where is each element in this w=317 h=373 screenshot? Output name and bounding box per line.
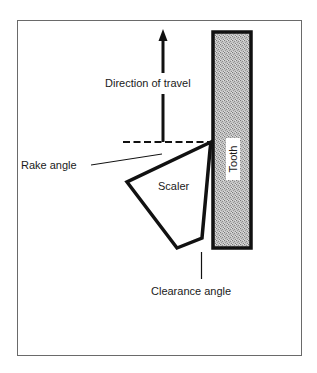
arrow-head-icon xyxy=(159,29,168,41)
tooth: Tooth xyxy=(213,32,251,248)
scaler-label: Scaler xyxy=(158,180,190,192)
tooth-label: Tooth xyxy=(227,146,239,173)
rake-angle-leader-line xyxy=(91,154,162,165)
clearance-angle-label: Clearance angle xyxy=(151,285,231,297)
scaler-tooth-diagram: Tooth Direction of travel Scaler Rake an… xyxy=(0,0,317,373)
rake-angle-label: Rake angle xyxy=(21,159,77,171)
direction-of-travel-label: Direction of travel xyxy=(105,77,191,89)
